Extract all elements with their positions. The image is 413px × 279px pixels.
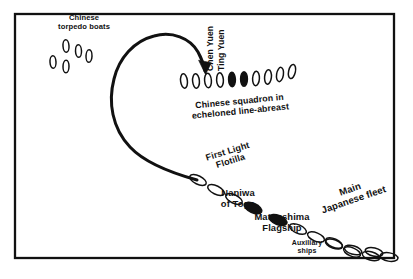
chinese-ship-marker — [287, 64, 297, 79]
chinese-ship-marker — [264, 69, 272, 84]
label-auxiliary-ships: Auxiliary ships — [283, 239, 331, 255]
torpedo-boat-marker — [63, 40, 70, 53]
battle-diagram: Chinese torpedo boats Chen Yuen Ting Yue… — [0, 0, 413, 279]
chinese-ship-marker — [204, 73, 212, 88]
label-chinese-torpedo-boats: Chinese torpedo boats — [44, 14, 124, 31]
chinese-ship-marker — [216, 73, 224, 88]
torpedo-boat-marker — [63, 60, 69, 73]
chinese-ship-chen-yuen — [228, 72, 235, 87]
label-chen-yuen: Chen Yuen — [206, 26, 216, 71]
chinese-ship-marker — [276, 67, 285, 82]
chinese-torpedo-boats-group — [50, 40, 93, 73]
label-ting-yuen: Ting Yuen — [217, 29, 227, 71]
label-naniwa-of-togo: Naniwa of Togo — [205, 188, 271, 209]
chinese-squadron-group — [180, 64, 297, 89]
chinese-ship-marker — [252, 71, 260, 86]
chinese-ship-ting-yuen — [241, 72, 248, 86]
torpedo-boat-marker — [75, 45, 81, 58]
torpedo-boat-marker — [86, 50, 92, 63]
chinese-ship-marker — [192, 74, 200, 89]
chinese-ship-marker — [180, 73, 189, 88]
torpedo-boat-marker — [50, 56, 57, 69]
label-matsushima-flagship: Matsushima Flagship — [246, 212, 318, 233]
